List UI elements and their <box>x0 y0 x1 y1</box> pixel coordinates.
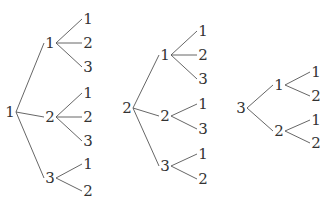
tree-edge <box>16 112 44 178</box>
tree-child-node: 2 <box>274 122 284 140</box>
tree-edge <box>56 93 82 117</box>
tree-edge <box>171 55 197 79</box>
tree-child-node: 1 <box>160 46 170 64</box>
tree-leaf-node: 3 <box>83 132 93 150</box>
tree-edge <box>56 117 82 141</box>
tree-edge <box>133 55 159 108</box>
tree-edge <box>247 108 273 131</box>
tree-edge <box>133 108 159 116</box>
tree-edge <box>285 85 310 96</box>
tree-leaf-node: 3 <box>198 120 208 138</box>
tree-root-node: 2 <box>122 99 132 117</box>
tree-edge <box>16 112 44 117</box>
tree-edge <box>171 104 197 116</box>
tree-edge <box>285 72 310 85</box>
tree-leaf-node: 2 <box>83 34 93 52</box>
tree-leaf-node: 3 <box>198 70 208 88</box>
tree-child-node: 3 <box>160 157 170 175</box>
tree-edge <box>171 116 197 129</box>
tree-child-node: 1 <box>45 34 55 52</box>
tree-leaf-node: 2 <box>83 108 93 126</box>
tree-edge <box>285 131 310 143</box>
tree-edge <box>56 43 82 67</box>
labels: 111232123312211232133123112212 <box>5 10 321 200</box>
tree-leaf-node: 2 <box>83 182 93 200</box>
tree-child-node: 1 <box>274 76 284 94</box>
tree-leaf-node: 1 <box>311 111 321 129</box>
tree-edge <box>56 178 82 191</box>
tree-leaf-node: 1 <box>83 10 93 28</box>
tree-child-node: 2 <box>45 108 55 126</box>
tree-leaf-node: 2 <box>311 134 321 152</box>
tree-edge <box>171 31 197 55</box>
tree-edge <box>16 43 44 112</box>
tree-edge <box>171 166 197 179</box>
tree-root-node: 3 <box>236 99 246 117</box>
tree-leaf-node: 1 <box>198 95 208 113</box>
tree-edge <box>285 120 310 131</box>
tree-edge <box>247 85 273 108</box>
tree-leaf-node: 2 <box>198 170 208 188</box>
tree-leaf-node: 1 <box>198 145 208 163</box>
tree-leaf-node: 1 <box>311 63 321 81</box>
tree-edge <box>171 154 197 166</box>
tree-leaf-node: 2 <box>198 46 208 64</box>
tree-edge <box>56 164 82 178</box>
tree-diagram-canvas: 111232123312211232133123112212 <box>0 0 330 205</box>
tree-edge <box>133 108 159 166</box>
tree-leaf-node: 3 <box>83 58 93 76</box>
tree-leaf-node: 1 <box>198 22 208 40</box>
tree-child-node: 3 <box>45 169 55 187</box>
tree-leaf-node: 2 <box>311 87 321 105</box>
tree-child-node: 2 <box>160 107 170 125</box>
tree-edge <box>56 19 82 43</box>
tree-root-node: 1 <box>5 103 15 121</box>
tree-diagram: 111232123312211232133123112212 <box>0 0 330 205</box>
tree-leaf-node: 1 <box>83 155 93 173</box>
tree-leaf-node: 1 <box>83 84 93 102</box>
